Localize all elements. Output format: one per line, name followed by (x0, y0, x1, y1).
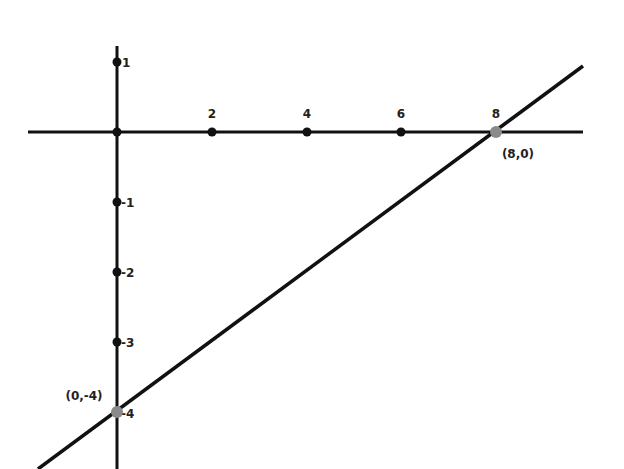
x-tick-6: 6 (397, 107, 406, 137)
y-tick-neg4: -4 (121, 407, 134, 421)
coordinate-plane: 2 4 6 8 1 -1 -2 -3 -4 (8,0) (0,-4) (0, 0, 624, 469)
origin-dot (113, 128, 122, 137)
x-tick-2: 2 (208, 107, 217, 137)
y-intercept-label: (0,-4) (65, 389, 102, 403)
x-tick-label: 4 (303, 107, 311, 121)
x-tick-4: 4 (303, 107, 312, 137)
y-tick-label: -3 (121, 336, 134, 350)
y-tick-1: 1 (113, 56, 131, 70)
y-tick-label: 1 (122, 56, 130, 70)
y-tick-label: -1 (121, 196, 134, 210)
x-tick-8: 8 (492, 107, 500, 121)
y-intercept-point: (0,-4) (65, 389, 123, 418)
y-tick-label: -2 (121, 266, 134, 280)
x-tick-label: 6 (397, 107, 405, 121)
x-tick-label: 2 (208, 107, 216, 121)
y-tick-label: -4 (121, 407, 134, 421)
x-tick-label: 8 (492, 107, 500, 121)
x-intercept-label: (8,0) (502, 147, 534, 161)
